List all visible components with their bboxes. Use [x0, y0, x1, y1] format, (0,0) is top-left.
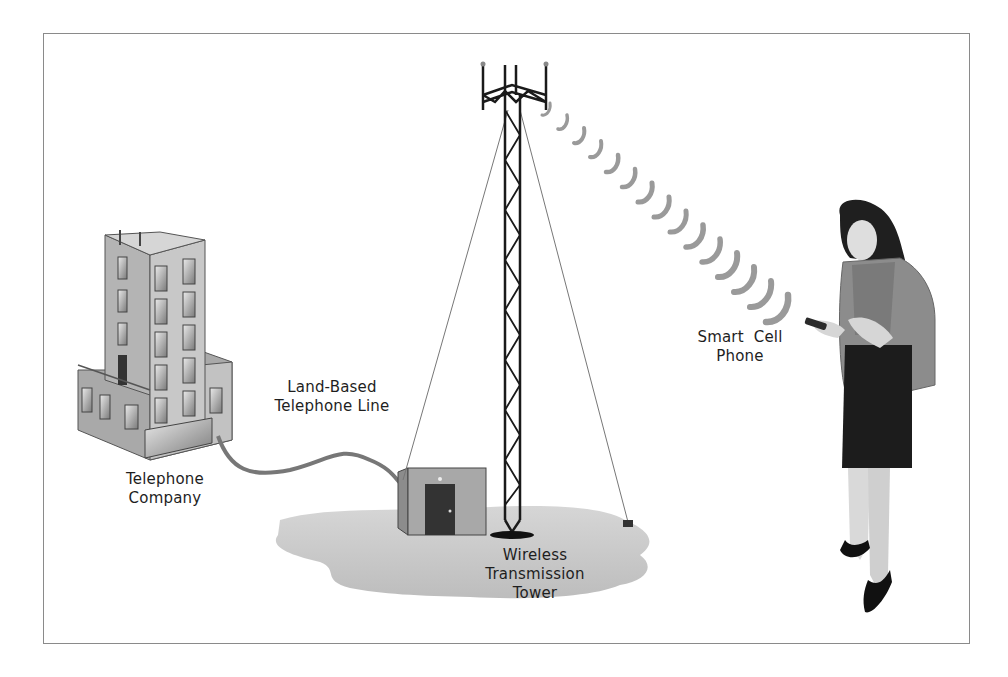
label-land-based-telephone-line: Land-Based Telephone Line: [262, 378, 402, 416]
label-line: Transmission: [465, 565, 605, 584]
guy-wires: [403, 110, 628, 522]
label-wireless-transmission-tower: Wireless Transmission Tower: [465, 546, 605, 603]
radio-wave-icon: [542, 103, 788, 322]
label-telephone-company: Telephone Company: [100, 470, 230, 508]
label-line: Smart Cell: [680, 328, 800, 347]
land-line-cable: [218, 436, 402, 485]
person-with-phone-icon: [804, 200, 935, 613]
label-line: Phone: [680, 347, 800, 366]
office-building-icon: [78, 230, 232, 460]
label-line: Land-Based: [262, 378, 402, 397]
lattice-tower-icon: [483, 65, 546, 532]
label-line: Wireless: [465, 546, 605, 565]
label-smart-cell-phone: Smart Cell Phone: [680, 328, 800, 366]
label-line: Company: [100, 489, 230, 508]
label-line: Tower: [465, 584, 605, 603]
label-line: Telephone: [100, 470, 230, 489]
tower-base-shadow: [490, 531, 534, 539]
guy-anchor: [623, 520, 633, 527]
equipment-shed-icon: [398, 468, 486, 535]
label-line: Telephone Line: [262, 397, 402, 416]
